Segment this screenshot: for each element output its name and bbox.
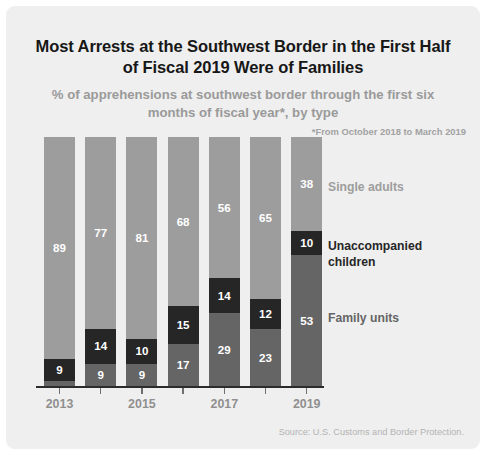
- bar-segment-2019-unaccompanied-children: 10: [291, 231, 322, 256]
- bar-value-label: 89: [53, 242, 66, 254]
- bar-segment-2013-unaccompanied-children: 9: [44, 359, 75, 381]
- bar-value-label: 10: [135, 345, 148, 357]
- x-axis-tick-2016: [182, 388, 184, 394]
- bar-value-label: 38: [300, 178, 313, 190]
- bar-value-label: 14: [218, 290, 231, 302]
- bar-value-label: 23: [259, 352, 272, 364]
- chart-source: Source: U.S. Customs and Border Protecti…: [126, 427, 464, 437]
- chart-card: Most Arrests at the Southwest Border in …: [6, 6, 480, 449]
- page-title: Most Arrests at the Southwest Border in …: [26, 36, 460, 78]
- chart-subtitle: % of apprehensions at southwest border t…: [36, 86, 450, 122]
- bar-segment-2018-family-units: 23: [250, 329, 281, 386]
- x-axis-tick-2014: [100, 388, 102, 394]
- stacked-bar-plot: 8997714981109681517561429651223381053: [44, 137, 322, 386]
- x-axis-label-2015: 2015: [112, 397, 172, 411]
- bar-value-label: 81: [135, 232, 148, 244]
- bar-value-label: 29: [218, 344, 231, 356]
- legend-item-single-adults: Single adults: [328, 180, 468, 196]
- bar-segment-2018-single-adults: 65: [250, 137, 281, 299]
- x-axis-tick-2017: [224, 388, 226, 394]
- bar-segment-2015-single-adults: 81: [126, 137, 157, 339]
- bar-segment-2014-single-adults: 77: [85, 137, 116, 329]
- bar-segment-2017-unaccompanied-children: 14: [209, 278, 240, 313]
- bar-value-label: 77: [94, 227, 107, 239]
- bar-2016[interactable]: 681517: [168, 137, 199, 386]
- bar-segment-2014-unaccompanied-children: 14: [85, 329, 116, 364]
- bar-value-label: 12: [259, 308, 272, 320]
- x-axis-tick-2015: [141, 388, 143, 394]
- bar-segment-2017-family-units: 29: [209, 313, 240, 386]
- bar-2019[interactable]: 381053: [291, 137, 322, 386]
- bar-value-label: 53: [300, 315, 313, 327]
- chart-footnote: *From October 2018 to March 2019: [306, 126, 466, 139]
- bar-segment-2014-family-units: 9: [85, 364, 116, 386]
- bar-value-label: 10: [300, 237, 313, 249]
- bar-segment-2016-single-adults: 68: [168, 137, 199, 306]
- bar-segment-2015-unaccompanied-children: 10: [126, 339, 157, 364]
- bar-value-label: 14: [94, 340, 107, 352]
- x-axis-tick-2013: [59, 388, 61, 394]
- bar-value-label: 9: [139, 369, 145, 381]
- bar-2017[interactable]: 561429: [209, 137, 240, 386]
- bar-segment-2019-single-adults: 38: [291, 137, 322, 231]
- bar-2014[interactable]: 77149: [85, 137, 116, 386]
- bar-2015[interactable]: 81109: [126, 137, 157, 386]
- bar-segment-2015-family-units: 9: [126, 364, 157, 386]
- bar-segment-2016-unaccompanied-children: 15: [168, 306, 199, 343]
- legend-item-unaccompanied-children: Unaccompanied children: [328, 239, 468, 270]
- bar-value-label: 15: [177, 319, 190, 331]
- x-axis-label-2019: 2019: [277, 397, 337, 411]
- x-axis-label-2013: 2013: [30, 397, 90, 411]
- bar-value-label: 9: [97, 369, 103, 381]
- x-axis-line: [36, 386, 324, 388]
- x-axis-label-2017: 2017: [194, 397, 254, 411]
- x-axis-tick-2019: [306, 388, 308, 394]
- bar-segment-2018-unaccompanied-children: 12: [250, 299, 281, 329]
- bar-2018[interactable]: 651223: [250, 137, 281, 386]
- bar-segment-2017-single-adults: 56: [209, 137, 240, 278]
- bar-value-label: 65: [259, 212, 272, 224]
- bar-segment-2013-single-adults: 89: [44, 137, 75, 359]
- bar-value-label: 17: [177, 359, 190, 371]
- bar-segment-2016-family-units: 17: [168, 344, 199, 386]
- bar-value-label: 9: [56, 364, 62, 376]
- bar-2013[interactable]: 899: [44, 137, 75, 386]
- x-axis-tick-2018: [265, 388, 267, 394]
- bar-value-label: 68: [177, 216, 190, 228]
- legend-item-family-units: Family units: [328, 311, 468, 327]
- bar-value-label: 56: [218, 202, 231, 214]
- bar-segment-2019-family-units: 53: [291, 255, 322, 386]
